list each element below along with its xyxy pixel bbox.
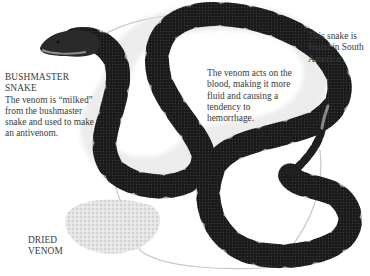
caption-heading-line2: SNAKE (5, 83, 95, 94)
habitat-caption: This snake is found in South America. (308, 31, 370, 65)
caption-heading-line1: BUSHMASTER (5, 72, 95, 83)
label-line1: DRIED (28, 235, 88, 246)
snake-head (40, 30, 100, 57)
caption-body: The venom is “milked” from the bushmaste… (5, 95, 94, 139)
caption-body: The venom acts on the blood, making it m… (207, 68, 292, 123)
label-line2: VENOM (28, 246, 88, 257)
venom-effect-caption: The venom acts on the blood, making it m… (207, 68, 299, 124)
dried-venom-label: DRIED VENOM (28, 235, 88, 258)
caption-body: This snake is found in South America. (308, 31, 364, 64)
bushmaster-caption: BUSHMASTER SNAKE The venom is “milked” f… (5, 72, 95, 140)
